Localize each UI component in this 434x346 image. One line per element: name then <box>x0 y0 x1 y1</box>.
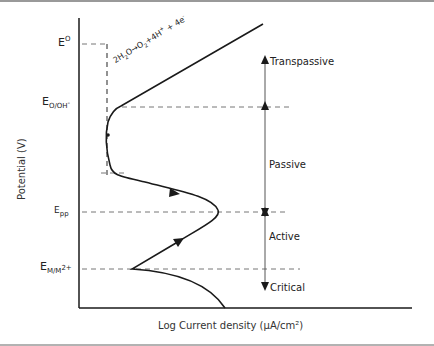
passive-top-arrow-icon <box>261 101 269 110</box>
curve-dot <box>106 133 110 137</box>
region-passive: Passive <box>269 160 306 170</box>
y-axis-label: Potential (V) <box>16 138 27 200</box>
curve-arrow-active <box>173 238 184 247</box>
polarization-diagram <box>0 0 434 346</box>
label-e-pp: Epp <box>54 206 69 218</box>
region-active: Active <box>269 232 300 242</box>
label-e-o-oh: EO/OH- <box>42 96 70 110</box>
region-transpassive: Transpassive <box>270 57 334 67</box>
transpassive-arrow-icon <box>261 55 269 64</box>
region-critical: Critical <box>270 283 305 293</box>
label-e-m-m2: EM/M2+ <box>40 261 72 275</box>
x-axis-label: Log Current density (μA/cm²) <box>158 320 303 331</box>
label-e0: EO <box>58 36 70 48</box>
diagram-frame: EO EO/OH- Epp EM/M2+ 2H2O→O2+4H+ + 4e- T… <box>0 0 434 346</box>
critical-arrow-icon <box>261 282 269 291</box>
polarization-curve <box>106 24 263 308</box>
